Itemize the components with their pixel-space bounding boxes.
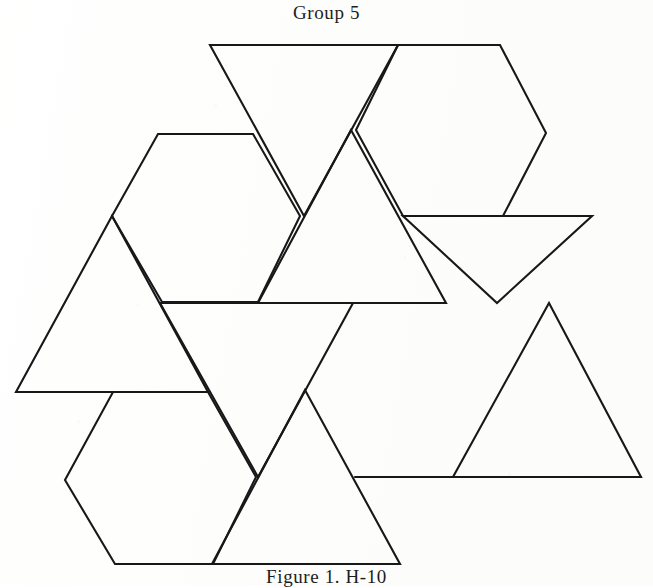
triangle-right-low-up [453, 303, 641, 477]
hexagon-bottom-left [65, 392, 256, 564]
triangle-center-low-down [160, 303, 353, 477]
figure-caption: Figure 1. H-10 [0, 566, 653, 588]
triangle-top-left-down [210, 45, 398, 216]
triangle-right-down [403, 216, 592, 303]
